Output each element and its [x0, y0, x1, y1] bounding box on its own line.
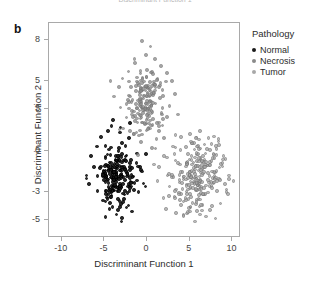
- legend-item-tumor[interactable]: Tumor: [252, 67, 295, 77]
- data-point-necrosis: [159, 64, 163, 68]
- data-point-necrosis: [161, 106, 165, 110]
- legend: Pathology NormalNecrosisTumor: [252, 28, 295, 78]
- data-point-necrosis: [125, 102, 129, 106]
- data-point-tumor: [156, 179, 160, 183]
- data-point-tumor: [157, 165, 161, 169]
- legend-item-normal[interactable]: Normal: [252, 45, 295, 55]
- data-point-normal: [102, 178, 106, 182]
- legend-item-label: Normal: [260, 45, 289, 55]
- data-point-necrosis: [153, 57, 157, 61]
- data-point-necrosis: [157, 124, 161, 128]
- data-point-necrosis: [161, 124, 165, 128]
- data-point-tumor: [188, 210, 192, 214]
- data-point-normal: [107, 181, 111, 185]
- data-point-normal: [120, 220, 124, 224]
- data-point-tumor: [193, 220, 197, 224]
- data-point-normal: [111, 118, 115, 122]
- data-point-tumor: [188, 173, 192, 177]
- legend-marker-icon: [252, 59, 256, 63]
- data-point-necrosis: [157, 129, 161, 133]
- data-point-tumor: [232, 179, 236, 183]
- data-point-necrosis: [152, 91, 156, 95]
- x-tick-mark: [189, 237, 190, 241]
- x-tick-label: 10: [216, 243, 246, 253]
- data-point-tumor: [227, 177, 231, 181]
- data-point-tumor: [204, 152, 208, 156]
- data-point-tumor: [212, 181, 216, 185]
- x-tick-mark: [103, 237, 104, 241]
- x-tick-mark: [61, 237, 62, 241]
- data-point-tumor: [219, 202, 223, 206]
- x-tick-mark: [231, 237, 232, 241]
- data-point-tumor: [194, 187, 198, 191]
- data-point-tumor: [206, 191, 210, 195]
- data-point-necrosis: [144, 102, 148, 106]
- data-point-normal: [125, 206, 129, 210]
- data-point-necrosis: [138, 129, 142, 133]
- data-point-tumor: [189, 140, 193, 144]
- data-point-necrosis: [141, 77, 145, 81]
- data-point-tumor: [178, 173, 182, 177]
- data-point-necrosis: [145, 75, 149, 79]
- x-tick-label: 0: [131, 243, 161, 253]
- data-point-tumor: [185, 184, 189, 188]
- legend-marker-icon: [252, 48, 256, 52]
- data-point-normal: [135, 179, 139, 183]
- data-point-tumor: [195, 151, 199, 155]
- data-point-necrosis: [125, 116, 129, 120]
- data-point-tumor: [184, 145, 188, 149]
- data-point-tumor: [162, 154, 166, 158]
- data-point-normal: [89, 154, 93, 158]
- data-point-normal: [144, 185, 148, 189]
- data-point-normal: [135, 161, 139, 165]
- data-point-necrosis: [134, 89, 138, 93]
- data-point-necrosis: [129, 85, 133, 89]
- data-point-necrosis: [139, 140, 143, 144]
- data-point-necrosis: [121, 77, 125, 81]
- data-point-necrosis: [136, 153, 140, 157]
- legend-item-necrosis[interactable]: Necrosis: [252, 56, 295, 66]
- data-point-tumor: [197, 156, 201, 160]
- data-point-tumor: [181, 187, 185, 191]
- data-point-tumor: [212, 135, 216, 139]
- data-point-tumor: [173, 152, 177, 156]
- data-point-tumor: [208, 208, 212, 212]
- data-point-normal: [136, 165, 140, 169]
- data-point-tumor: [210, 186, 214, 190]
- data-point-tumor: [202, 186, 206, 190]
- data-point-necrosis: [161, 88, 165, 92]
- data-point-normal: [107, 148, 111, 152]
- data-point-tumor: [198, 198, 202, 202]
- data-point-normal: [128, 121, 132, 125]
- data-point-necrosis: [162, 136, 166, 140]
- data-point-tumor: [208, 148, 212, 152]
- data-point-necrosis: [148, 114, 152, 118]
- y-tick-label: 3: [10, 103, 40, 113]
- data-point-necrosis: [145, 68, 149, 72]
- data-point-necrosis: [165, 71, 169, 75]
- data-point-necrosis: [148, 119, 152, 123]
- data-point-normal: [112, 170, 116, 174]
- data-point-necrosis: [127, 80, 131, 84]
- data-point-necrosis: [173, 92, 177, 96]
- data-point-tumor: [200, 209, 204, 213]
- data-point-necrosis: [127, 107, 131, 111]
- data-point-tumor: [184, 178, 188, 182]
- data-point-necrosis: [164, 80, 168, 84]
- x-tick-label: -10: [46, 243, 76, 253]
- data-point-normal: [115, 213, 119, 217]
- data-point-normal: [124, 155, 128, 159]
- data-point-tumor: [200, 159, 204, 163]
- data-point-tumor: [210, 142, 214, 146]
- data-point-normal: [85, 177, 89, 181]
- data-point-necrosis: [148, 100, 152, 104]
- data-point-tumor: [180, 181, 184, 185]
- data-point-normal: [87, 182, 91, 186]
- data-point-necrosis: [134, 84, 138, 88]
- data-point-tumor: [188, 192, 192, 196]
- data-point-tumor: [176, 161, 180, 165]
- y-tick-label: -3: [10, 186, 40, 196]
- data-point-necrosis: [140, 39, 144, 43]
- y-axis-title: Discriminant Function 2: [32, 27, 43, 242]
- y-tick-label: 0: [10, 145, 40, 155]
